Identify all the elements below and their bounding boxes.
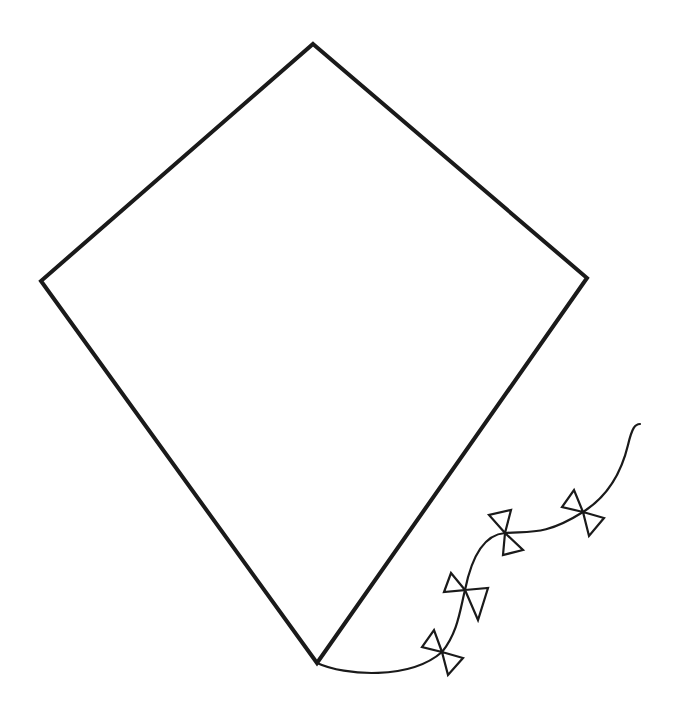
- background: [0, 0, 674, 718]
- kite-drawing: [0, 0, 674, 718]
